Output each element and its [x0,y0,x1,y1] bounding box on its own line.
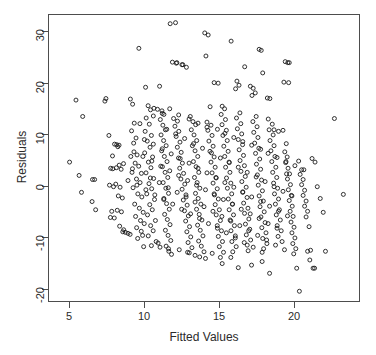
y-tick-label: 0 [34,184,46,224]
x-tick-mark [144,302,145,308]
x-tick-mark [219,302,220,308]
x-tick-label: 5 [49,310,89,322]
x-tick-label: 20 [274,310,314,322]
y-tick-label: 10 [34,132,46,172]
x-tick-mark [294,302,295,308]
x-tick-label: 10 [124,310,164,322]
scatter-points-layer [49,15,359,301]
y-tick-label: 20 [34,81,46,121]
y-tick-label: 30 [34,29,46,69]
x-tick-mark [69,302,70,308]
residual-plot-figure: 5101520 -20-100102030 Fitted Values Resi… [0,0,376,355]
x-axis-title: Fitted Values [48,330,360,344]
y-tick-label: -20 [34,287,46,327]
y-axis-title: Residuals [15,97,29,217]
plot-area [48,14,360,302]
y-tick-label: -10 [34,235,46,275]
x-tick-label: 15 [199,310,239,322]
